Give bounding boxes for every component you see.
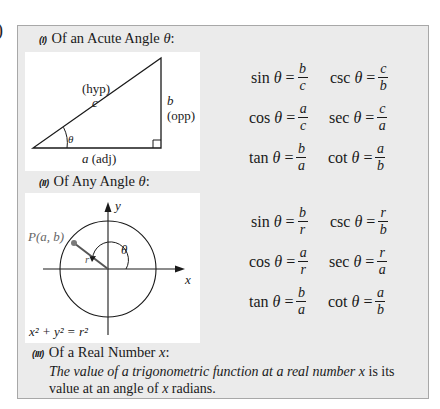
fn-name: tan (249, 149, 269, 166)
fraction: ba (296, 286, 306, 317)
fn-arg: θ (274, 253, 282, 270)
opp-label: (opp) (167, 108, 195, 124)
radius-text: r (85, 253, 89, 265)
fn-arg: θ (274, 213, 282, 230)
formula-lhs: tan θ = (249, 149, 293, 167)
fn-arg: θ (354, 213, 362, 230)
numerator: c (380, 62, 386, 76)
section-1-number: (I) (39, 34, 46, 45)
fraction: ab (375, 142, 385, 173)
fraction: rb (378, 206, 388, 237)
section-2-title: Of Any Angle (54, 173, 139, 189)
fn-name: csc (330, 69, 350, 86)
formula-sec: sec θ = ca (329, 102, 387, 133)
formula-cot: cot θ = ab (328, 286, 385, 317)
formula-lhs: sin θ = (251, 213, 295, 231)
fn-arg: θ (354, 69, 362, 86)
section-3-colon: : (166, 344, 170, 360)
formula-cot: cot θ = ab (328, 142, 385, 173)
circle-diagram (25, 193, 200, 343)
radius-label: r (85, 253, 89, 265)
section-2-colon: : (146, 173, 150, 189)
section-3-heading: (III)Of a Real Number x: (32, 344, 170, 361)
numerator: r (380, 246, 385, 260)
y-axis-text: y (115, 198, 121, 213)
denominator: b (377, 303, 384, 317)
hyp-var-text: c (92, 95, 98, 110)
fn-arg: θ (352, 149, 360, 166)
fraction: bc (298, 62, 308, 93)
formula-lhs: cos θ = (249, 109, 295, 127)
fraction: br (298, 206, 308, 237)
denominator: c (300, 119, 306, 133)
denominator: a (298, 159, 305, 173)
section-2-heading: (II)Of Any Angle θ: (39, 173, 150, 190)
section-1-heading: (I)Of an Acute Angle θ: (39, 30, 175, 47)
section-3-title: Of a Real Number (49, 344, 159, 360)
fn-name: sin (251, 213, 270, 230)
formula-tan: tan θ = ba (249, 142, 306, 173)
formula-lhs: tan θ = (249, 293, 293, 311)
fraction: ar (298, 246, 308, 277)
point-p-text: P(a, b) (28, 229, 64, 244)
fn-name: cot (328, 293, 348, 310)
formula-csc: csc θ = rb (330, 206, 388, 237)
description-end: radians. (168, 381, 215, 396)
numerator: b (299, 206, 306, 220)
formula-lhs: sec θ = (329, 253, 374, 271)
fn-name: cos (249, 109, 270, 126)
formula-cos: cos θ = ac (249, 102, 308, 133)
section-2-number: (II) (39, 177, 49, 188)
section-3-description: The value of a trigonometric function at… (49, 363, 419, 397)
formula-cos: cos θ = ar (249, 246, 308, 277)
angle-theta-text: θ (121, 242, 127, 257)
numerator: r (381, 206, 386, 220)
x-axis-text: x (185, 272, 191, 287)
point-p-label: P(a, b) (28, 229, 64, 245)
fraction: ac (298, 102, 308, 133)
section-2-symbol: θ (139, 173, 146, 189)
fn-arg: θ (273, 149, 281, 166)
right-triangle-panel: (hyp) c b (opp) θ a (adj) (25, 52, 200, 171)
denominator: a (379, 263, 386, 277)
denominator: a (379, 119, 386, 133)
angle-theta-text: θ (68, 133, 73, 145)
denominator: c (299, 79, 305, 93)
denominator: b (380, 79, 387, 93)
fraction: ab (375, 286, 385, 317)
fn-arg: θ (273, 293, 281, 310)
numerator: a (377, 286, 384, 300)
formula-lhs: cot θ = (328, 149, 372, 167)
x-axis-label: x (185, 272, 191, 288)
fn-name: sec (329, 109, 349, 126)
fn-name: cot (328, 149, 348, 166)
section-1-symbol: θ (163, 30, 170, 46)
fn-arg: θ (274, 109, 282, 126)
fn-arg: θ (274, 69, 282, 86)
angle-theta-label: θ (68, 133, 73, 145)
section-1-title: Of an Acute Angle (51, 30, 163, 46)
circle-panel: P(a, b) y x r θ x² + y² = r² (25, 193, 200, 343)
circle-equation-text: x² + y² = r² (29, 324, 88, 339)
fn-arg: θ (353, 253, 361, 270)
edge-fragment: ) (0, 20, 3, 41)
adj-label: a (adj) (82, 151, 116, 167)
numerator: a (377, 142, 384, 156)
fraction: cb (378, 62, 388, 93)
numerator: b (298, 142, 305, 156)
formula-lhs: cot θ = (328, 293, 372, 311)
formula-sec: sec θ = ra (329, 246, 387, 277)
fraction: ba (296, 142, 306, 173)
denominator: b (380, 223, 387, 237)
formula-tan: tan θ = ba (249, 286, 306, 317)
circle-equation: x² + y² = r² (29, 324, 88, 340)
formula-csc: csc θ = cb (330, 62, 388, 93)
formula-lhs: csc θ = (330, 69, 375, 87)
section-3-number: (III) (32, 348, 44, 359)
adj-label-text: (adj) (89, 151, 117, 166)
numerator: b (298, 286, 305, 300)
fn-name: sin (251, 69, 270, 86)
denominator: r (300, 263, 305, 277)
opp-var: b (167, 93, 174, 109)
numerator: c (379, 102, 385, 116)
